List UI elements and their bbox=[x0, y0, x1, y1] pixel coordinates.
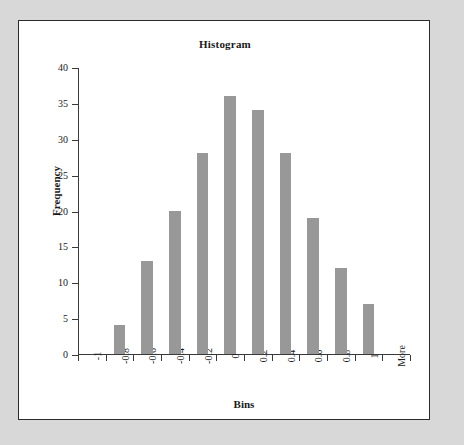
screenshot-root: Histogram Frequency Bins 051015202530354… bbox=[0, 0, 464, 445]
y-axis-tick-label: 25 bbox=[58, 169, 68, 182]
x-axis-tick bbox=[161, 355, 162, 361]
y-axis-tick: 5 bbox=[72, 319, 78, 320]
y-axis-tick-label: 5 bbox=[63, 312, 68, 325]
y-axis-tick-label: 35 bbox=[58, 97, 68, 110]
bar bbox=[141, 261, 153, 354]
x-axis-tick bbox=[216, 355, 217, 361]
x-axis-tick bbox=[355, 355, 356, 361]
x-axis-tick bbox=[78, 355, 79, 361]
x-axis-tick bbox=[327, 355, 328, 361]
y-axis-tick-label: 40 bbox=[58, 61, 68, 74]
y-axis-tick-label: 0 bbox=[63, 348, 68, 361]
x-axis-tick bbox=[244, 355, 245, 361]
y-axis-tick: 30 bbox=[72, 140, 78, 141]
x-axis-tick bbox=[133, 355, 134, 361]
x-axis-title: Bins bbox=[78, 398, 410, 410]
x-axis-tick-label: 1 bbox=[369, 354, 380, 359]
y-axis-tick: 25 bbox=[72, 176, 78, 177]
bar bbox=[280, 153, 292, 354]
bar bbox=[335, 268, 347, 354]
x-axis-tick-label: More bbox=[396, 345, 407, 367]
bar bbox=[114, 325, 126, 354]
chart-title: Histogram bbox=[19, 38, 431, 50]
y-axis-tick-label: 10 bbox=[58, 276, 68, 289]
bar bbox=[363, 304, 375, 354]
bar bbox=[169, 211, 181, 355]
y-axis-tick-label: 20 bbox=[58, 205, 68, 218]
x-axis-tick bbox=[106, 355, 107, 361]
x-axis-tick bbox=[189, 355, 190, 361]
y-axis-tick: 40 bbox=[72, 68, 78, 69]
y-axis-tick-label: 30 bbox=[58, 133, 68, 146]
y-axis-tick: 20 bbox=[72, 212, 78, 213]
bar bbox=[307, 218, 319, 354]
x-axis-tick-label: -1 bbox=[92, 352, 103, 360]
y-axis-tick: 35 bbox=[72, 104, 78, 105]
x-axis-tick-label: 0 bbox=[230, 354, 241, 359]
bar bbox=[224, 96, 236, 354]
bar bbox=[252, 110, 264, 354]
bar bbox=[197, 153, 209, 354]
plot-area: 0510152025303540 -1-0.8-0.6-0.4-0.200.20… bbox=[78, 68, 410, 355]
x-axis-tick bbox=[272, 355, 273, 361]
y-axis-tick: 15 bbox=[72, 247, 78, 248]
x-axis-tick bbox=[382, 355, 383, 361]
x-axis-tick bbox=[410, 355, 411, 361]
x-axis-tick bbox=[299, 355, 300, 361]
y-axis-tick-label: 15 bbox=[58, 240, 68, 253]
y-axis-tick: 10 bbox=[72, 283, 78, 284]
y-axis-line bbox=[78, 68, 79, 355]
